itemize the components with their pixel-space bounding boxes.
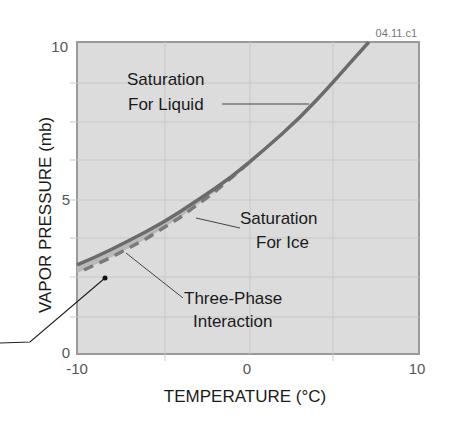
x-axis-title: TEMPERATURE (°C) <box>164 387 326 406</box>
y-axis-title: VAPOR PRESSURE (mb) <box>36 117 55 313</box>
ice-label-line2: For Ice <box>256 233 309 252</box>
phase-label-line2: Interaction <box>193 312 272 331</box>
y-tick-5: 5 <box>62 191 70 208</box>
phase-label-line1: Three-Phase <box>184 289 282 308</box>
vapor-pressure-chart: Saturation For Liquid Saturation For Ice… <box>0 0 453 431</box>
liquid-label-line1: Saturation <box>127 70 205 89</box>
y-tick-0: 0 <box>62 344 70 361</box>
callout-dot <box>103 276 108 281</box>
x-tick-0: 0 <box>243 360 251 377</box>
figure-id: 04.11.c1 <box>376 27 417 39</box>
y-tick-10: 10 <box>51 38 68 55</box>
liquid-label-line2: For Liquid <box>128 95 204 114</box>
x-tick-10: 10 <box>409 360 426 377</box>
x-tick-neg10: -10 <box>66 360 88 377</box>
ice-label-line1: Saturation <box>240 209 318 228</box>
